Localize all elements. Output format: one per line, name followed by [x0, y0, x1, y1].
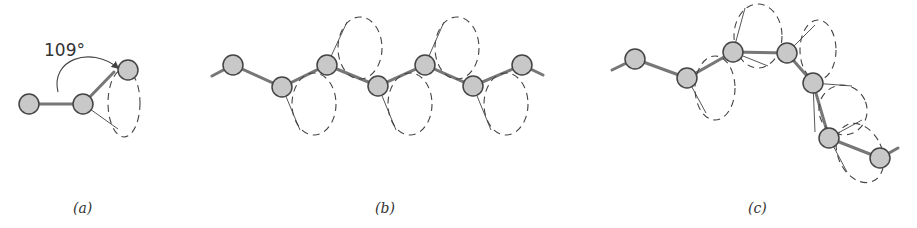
atom: [677, 68, 697, 88]
atom: [415, 55, 435, 75]
atom: [368, 76, 388, 96]
atom: [870, 148, 890, 168]
atom: [512, 55, 532, 75]
atom: [723, 42, 743, 62]
rotation-cone-ellipse: [388, 73, 432, 135]
atom: [223, 55, 243, 75]
rotation-cone-ellipse: [292, 73, 336, 135]
panel-b-label: (b): [375, 200, 395, 216]
atom: [803, 73, 823, 93]
atom: [625, 49, 645, 69]
atom: [317, 55, 337, 75]
bond-angle-label: 109°: [44, 40, 85, 60]
panel-c-diagram: [612, 4, 898, 190]
rotation-cone-ellipse: [435, 17, 479, 79]
panel-a-label: (a): [73, 200, 92, 216]
rotation-cone-ellipse: [695, 56, 735, 120]
coiled-backbone: [612, 52, 898, 158]
rotation-cone-ellipse: [800, 20, 836, 80]
atom: [19, 94, 39, 114]
atom: [463, 76, 483, 96]
panel-c-label: (c): [748, 200, 767, 216]
panel-a-diagram: [19, 57, 140, 137]
atom: [777, 43, 797, 63]
angle-arc-icon: [57, 57, 118, 92]
atom: [819, 128, 839, 148]
atom: [272, 77, 292, 97]
chain-conformation-diagram: [0, 0, 917, 228]
atom: [73, 94, 93, 114]
atom: [118, 60, 138, 80]
panel-b-diagram: [212, 17, 543, 135]
rotation-cone-ellipse: [484, 73, 528, 135]
